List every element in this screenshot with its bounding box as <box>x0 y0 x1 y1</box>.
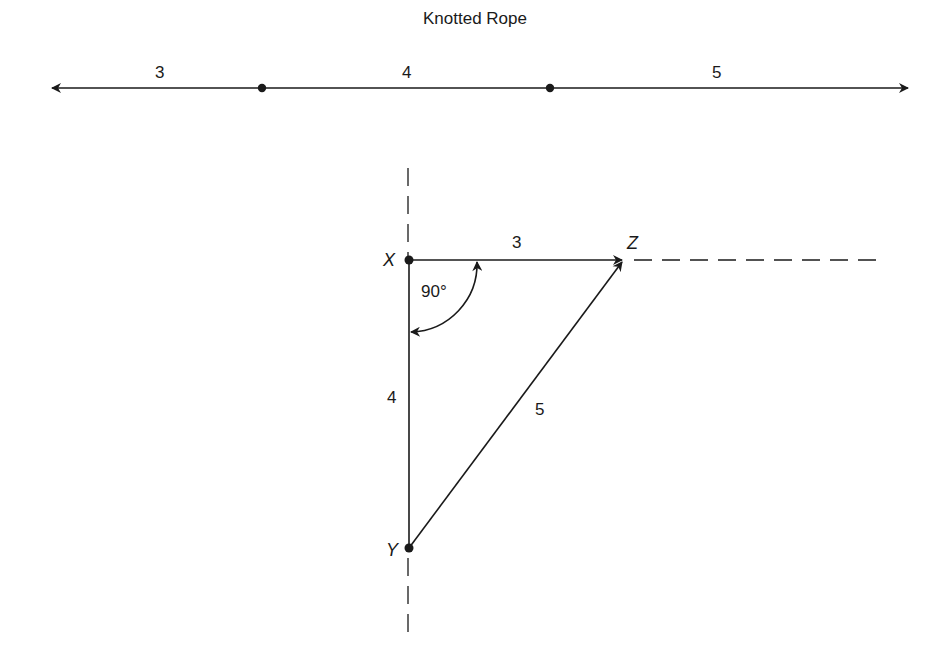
right-triangle <box>409 260 622 548</box>
guide-lines <box>408 168 880 636</box>
rope-segment-label-1: 3 <box>155 64 164 81</box>
side-xy-label: 4 <box>387 389 396 406</box>
diagram-canvas <box>0 0 941 648</box>
rope-knot-1 <box>258 84 266 92</box>
vertex-y-label: Y <box>386 541 398 559</box>
vertex-x-dot <box>405 256 414 265</box>
right-angle-label: 90° <box>421 283 447 300</box>
rope-knot-2 <box>546 84 554 92</box>
side-yz-label: 5 <box>535 401 544 418</box>
side-xz-label: 3 <box>512 234 521 251</box>
knotted-rope <box>52 84 908 92</box>
rope-segment-label-2: 4 <box>402 64 411 81</box>
side-yz <box>409 262 622 548</box>
vertex-x-label: X <box>383 251 395 269</box>
rope-title: Knotted Rope <box>423 10 527 27</box>
vertex-y-dot <box>405 544 414 553</box>
rope-segment-label-3: 5 <box>712 64 721 81</box>
vertex-z-label: Z <box>627 234 638 252</box>
